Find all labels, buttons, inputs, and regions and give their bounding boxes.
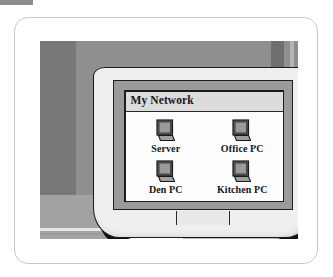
network-item-kitchen-pc[interactable]: Kitchen PC	[204, 157, 281, 199]
my-network-window: My Network	[126, 92, 283, 201]
computer-icon	[153, 159, 179, 184]
network-item-label: Server	[151, 144, 180, 154]
crt-monitor: My Network	[93, 67, 298, 239]
computer-icon	[229, 159, 255, 184]
network-item-label: Office PC	[221, 144, 264, 154]
page-scan-mark	[0, 0, 33, 5]
computer-icon	[229, 118, 255, 143]
network-item-label: Kitchen PC	[217, 185, 268, 195]
backdrop-wall-left	[40, 41, 76, 199]
window-title-text: My Network	[131, 95, 194, 107]
network-item-office-pc[interactable]: Office PC	[204, 116, 281, 158]
network-item-server[interactable]: Server	[128, 116, 205, 158]
network-item-den-pc[interactable]: Den PC	[128, 157, 205, 199]
network-item-label: Den PC	[149, 185, 183, 195]
network-icon-grid: Server	[126, 112, 283, 201]
figure-card: My Network	[14, 17, 318, 264]
window-title-bar[interactable]: My Network	[126, 92, 283, 112]
monitor-stand-neck	[176, 211, 230, 225]
monitor-case: My Network	[93, 67, 298, 238]
computer-icon	[153, 118, 179, 143]
scene-backdrop: My Network	[40, 41, 298, 239]
monitor-screen-rim: My Network	[124, 90, 284, 202]
monitor-bezel: My Network	[113, 80, 293, 210]
